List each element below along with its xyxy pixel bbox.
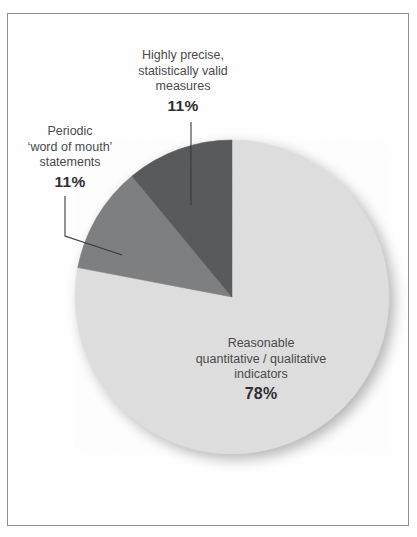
slice-label-precise-line1: Highly precise,	[142, 48, 224, 62]
slice-percent-precise: 11%	[118, 95, 248, 116]
slice-label-reasonable-line3: indicators	[234, 367, 288, 381]
slice-label-reasonable-line2: quantitative / qualitative	[196, 352, 327, 366]
slice-label-periodic-line2: ‘word of mouth’	[28, 140, 113, 154]
slice-label-periodic: Periodic ‘word of mouth’ statements 11%	[14, 124, 126, 192]
slice-percent-periodic: 11%	[14, 171, 126, 192]
slice-percent-reasonable: 78%	[185, 383, 337, 404]
slice-label-periodic-line1: Periodic	[47, 124, 92, 138]
slice-label-reasonable: Reasonable quantitative / qualitative in…	[185, 336, 337, 404]
slice-label-precise: Highly precise, statistically valid meas…	[118, 48, 248, 116]
slice-label-precise-line2: statistically valid	[138, 64, 228, 78]
slice-label-precise-line3: measures	[156, 79, 211, 93]
slice-label-periodic-line3: statements	[39, 155, 100, 169]
chart-stage: Highly precise, statistically valid meas…	[0, 0, 417, 537]
pie-chart-figure: Highly precise, statistically valid meas…	[0, 0, 417, 537]
slice-label-reasonable-line1: Reasonable	[228, 336, 295, 350]
